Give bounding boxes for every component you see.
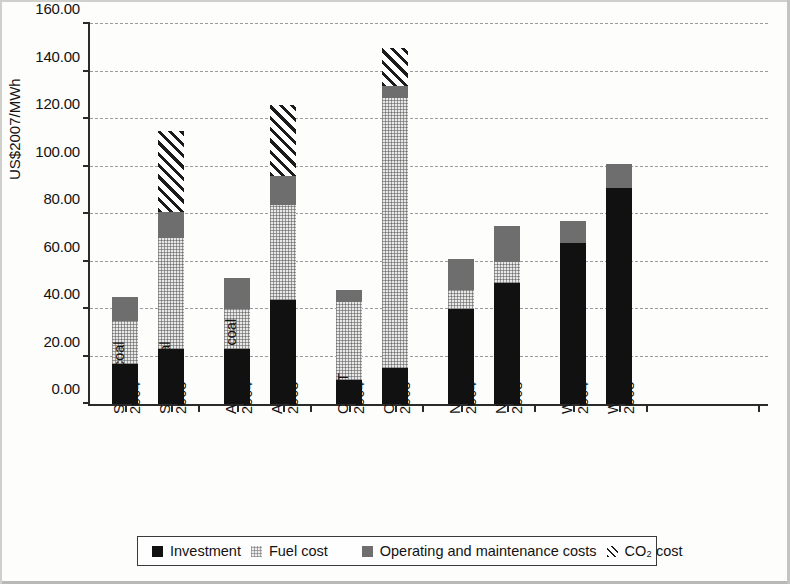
x-axis-label-year: 2008 xyxy=(622,381,638,414)
x-axis-label: Steam coal2004 xyxy=(112,341,143,414)
y-axis-tick xyxy=(83,22,90,24)
y-axis-tick-label: 40.00 xyxy=(43,285,80,302)
bar-segment-om xyxy=(336,290,362,302)
bar-segment-co2 xyxy=(382,48,408,86)
x-axis-group-tick xyxy=(646,404,648,412)
x-axis-label-name: CCGT xyxy=(381,373,397,414)
x-axis-group-tick xyxy=(310,404,312,412)
x-axis-label-year: 2008 xyxy=(286,319,302,414)
legend-item-investment[interactable]: Investment xyxy=(152,543,241,559)
legend-label: CO₂ cost xyxy=(625,543,683,559)
x-axis-label-name: Steam coal xyxy=(157,341,173,414)
x-axis-label-name: Advanced coal xyxy=(223,319,239,414)
y-axis-tick-label: 120.00 xyxy=(35,95,80,112)
bar-segment-om xyxy=(560,221,586,242)
bar-segment-om xyxy=(270,176,296,205)
x-axis-label: Wind2004 xyxy=(560,381,591,414)
x-axis-label-name: Wind xyxy=(559,381,575,414)
bar-segment-co2 xyxy=(270,105,296,176)
y-axis-tick-label: 80.00 xyxy=(43,190,80,207)
gridline xyxy=(90,23,768,24)
chart-figure: US$2007/MWh 0.0020.0040.0060.0080.00100.… xyxy=(0,0,790,584)
bar-segment-fuel xyxy=(336,302,362,380)
legend-swatch-investment-icon xyxy=(152,546,163,557)
x-axis-group-tick xyxy=(758,404,760,412)
y-axis-tick-label: 0.00 xyxy=(52,380,80,397)
x-axis-label-year: 2004 xyxy=(576,381,592,414)
legend-label: Fuel cost xyxy=(269,543,328,559)
bar-segment-om xyxy=(494,226,520,262)
x-axis-label-name: CCGT xyxy=(335,373,351,414)
plot-area: 0.0020.0040.0060.0080.00100.00120.00140.… xyxy=(88,24,768,406)
y-axis-tick xyxy=(83,212,90,214)
x-axis-label-name: Wind xyxy=(605,381,621,414)
x-axis-label-year: 2008 xyxy=(174,341,190,414)
y-axis-tick-label: 160.00 xyxy=(35,0,80,17)
legend-item-co2[interactable]: CO₂ cost xyxy=(607,543,683,559)
x-axis-label-year: 2008 xyxy=(398,373,414,414)
x-axis-label: Steam coal2008 xyxy=(158,341,189,414)
bar-segment-om xyxy=(382,86,408,98)
bar-segment-fuel xyxy=(494,262,520,283)
x-axis-label-year: 2004 xyxy=(464,364,480,414)
bar-segment-investment xyxy=(560,243,586,405)
x-axis-label-name: Steam coal xyxy=(111,341,127,414)
y-axis-tick xyxy=(83,355,90,357)
legend-item-fuel[interactable]: Fuel cost xyxy=(251,543,328,559)
legend-swatch-om-icon xyxy=(362,546,373,557)
legend-label: Operating and maintenance costs xyxy=(380,543,597,559)
stacked-bar[interactable] xyxy=(382,48,408,404)
gridline xyxy=(90,71,768,72)
y-axis-tick xyxy=(83,117,90,119)
y-axis-tick-label: 140.00 xyxy=(35,47,80,64)
bar-segment-om xyxy=(158,212,184,238)
gridline xyxy=(90,308,768,309)
x-axis-label: Advanced coal2008 xyxy=(270,319,301,414)
y-axis-tick-label: 60.00 xyxy=(43,237,80,254)
legend-swatch-co2-icon xyxy=(607,546,618,557)
y-axis-tick-label: 100.00 xyxy=(35,142,80,159)
x-axis-label: Nuclear2008 xyxy=(494,364,525,414)
chart-legend: InvestmentFuel costOperating and mainten… xyxy=(137,536,657,566)
y-axis-tick xyxy=(83,260,90,262)
bar-segment-om xyxy=(606,164,632,188)
x-axis-label: CCGT2004 xyxy=(336,373,367,414)
bar-segment-om xyxy=(224,278,250,309)
bar-segment-fuel xyxy=(158,238,184,350)
x-axis-label-name: Advanced coal xyxy=(269,319,285,414)
stacked-bar[interactable] xyxy=(606,164,632,404)
y-axis-title: US$2007/MWh xyxy=(6,78,23,180)
bar-segment-om xyxy=(448,259,474,290)
page-edge-left xyxy=(0,0,2,584)
bar-segment-fuel xyxy=(382,98,408,369)
x-axis-label-year: 2004 xyxy=(240,319,256,414)
legend-item-om[interactable]: Operating and maintenance costs xyxy=(362,543,597,559)
page-edge-top xyxy=(0,0,790,2)
x-axis-label-name: Nuclear xyxy=(493,364,509,414)
x-axis-label-name: Nuclear xyxy=(447,364,463,414)
stacked-bar[interactable] xyxy=(560,221,586,404)
x-axis-label: CCGT2008 xyxy=(382,373,413,414)
y-axis-tick xyxy=(83,165,90,167)
gridline xyxy=(90,213,768,214)
x-axis-label: Advanced coal2004 xyxy=(224,319,255,414)
bar-segment-investment xyxy=(606,188,632,404)
gridline xyxy=(90,356,768,357)
x-axis-label: Wind2008 xyxy=(606,381,637,414)
y-axis-tick xyxy=(83,307,90,309)
bar-segment-fuel xyxy=(448,290,474,309)
x-axis-group-tick xyxy=(534,404,536,412)
legend-label: Investment xyxy=(170,543,241,559)
gridline xyxy=(90,166,768,167)
x-axis-label: Nuclear2004 xyxy=(448,364,479,414)
legend-swatch-fuel-icon xyxy=(251,546,262,557)
x-axis-group-tick xyxy=(198,404,200,412)
y-axis-tick xyxy=(83,402,90,404)
gridline xyxy=(90,261,768,262)
bar-segment-co2 xyxy=(158,131,184,212)
bar-segment-om xyxy=(112,297,138,321)
y-axis-tick xyxy=(83,70,90,72)
x-axis-label-year: 2008 xyxy=(510,364,526,414)
x-axis-group-tick xyxy=(422,404,424,412)
gridline xyxy=(90,118,768,119)
